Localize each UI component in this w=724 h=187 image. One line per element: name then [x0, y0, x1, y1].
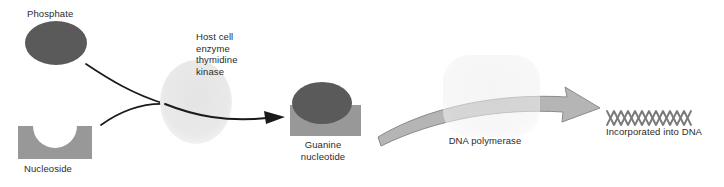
phosphate-oval: [25, 21, 87, 65]
label-guanine-nucleotide: Guanine nucleotide: [277, 139, 369, 162]
nucleoside-block: [18, 126, 92, 159]
guanine-nucleotide-group: [290, 82, 361, 136]
dna-polymerase-shape: [443, 55, 540, 137]
guanine-oval: [292, 82, 352, 124]
label-dna-polymerase: DNA polymerase: [429, 135, 541, 147]
label-incorporated-into-dna: Incorporated into DNA: [594, 126, 714, 138]
phosphate-to-kinase-line: [86, 64, 165, 104]
label-phosphate: Phosphate: [27, 8, 73, 20]
label-host-cell-enzyme-thymidine-kinase: Host cell enzyme thymidine kinase: [196, 31, 238, 77]
label-nucleoside: Nucleoside: [24, 163, 72, 175]
dna-helix-icon: [607, 111, 691, 125]
diagram-canvas: Phosphate Nucleoside Host cell enzyme th…: [0, 0, 724, 187]
nucleoside-to-kinase-line: [101, 104, 165, 125]
